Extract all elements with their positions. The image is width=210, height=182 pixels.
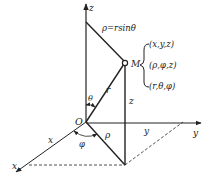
coord-set-spherical: (r,θ,φ) bbox=[149, 81, 175, 91]
point-m-label: M bbox=[130, 59, 141, 69]
formula-label: ρ=rsinθ bbox=[101, 23, 136, 33]
phi-label: φ bbox=[79, 139, 85, 149]
phi-arc bbox=[74, 131, 97, 136]
coordinate-brace bbox=[140, 44, 149, 87]
dashed-y-projection bbox=[125, 122, 183, 165]
coord-set-cylindrical: (ρ,φ,z) bbox=[149, 60, 176, 70]
coordinate-diagram: z y x ρ=rsinθ r z ρ M (x,y,z) (ρ,φ,z) (r… bbox=[0, 0, 210, 182]
y-segment-label: y bbox=[143, 126, 150, 136]
x-axis bbox=[16, 122, 86, 172]
z-axis-label: z bbox=[88, 3, 94, 13]
y-axis-label: y bbox=[192, 128, 199, 138]
z-height-label: z bbox=[128, 96, 134, 106]
theta-arc bbox=[86, 105, 95, 107]
r-label: r bbox=[106, 85, 111, 95]
theta-label: θ bbox=[88, 94, 93, 103]
origin-label: O bbox=[75, 116, 83, 127]
coord-set-cartesian: (x,y,z) bbox=[149, 39, 174, 49]
point-m bbox=[122, 60, 127, 65]
rho-label: ρ bbox=[104, 130, 111, 140]
x-axis-label: x bbox=[12, 161, 17, 171]
rho-line bbox=[86, 122, 125, 165]
x-segment-label: x bbox=[48, 135, 53, 145]
r-line bbox=[86, 64, 124, 122]
